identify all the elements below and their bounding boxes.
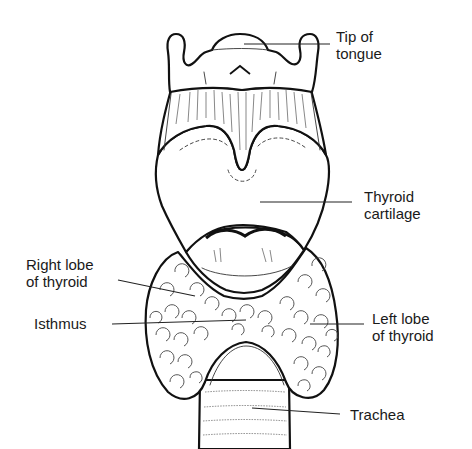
label-line: Thyroid	[364, 188, 421, 205]
thyroid-diagram: Tip of tongue Thyroid cartilage Right lo…	[0, 0, 472, 449]
label-line: Right lobe	[26, 256, 94, 273]
label-line: tongue	[336, 45, 382, 62]
label-left-lobe: Left lobe of thyroid	[372, 310, 434, 344]
label-line: cartilage	[364, 205, 421, 222]
anatomy-illustration	[0, 0, 472, 449]
label-line: of thyroid	[372, 327, 434, 344]
label-line: Trachea	[350, 406, 404, 423]
label-thyroid-cartilage: Thyroid cartilage	[364, 188, 421, 222]
label-line: Left lobe	[372, 310, 434, 327]
trachea-shape	[199, 380, 290, 449]
label-tip-of-tongue: Tip of tongue	[336, 28, 382, 62]
hyoid-bone-shape	[167, 34, 318, 92]
label-isthmus: Isthmus	[34, 315, 87, 332]
label-trachea: Trachea	[350, 406, 404, 423]
label-right-lobe: Right lobe of thyroid	[26, 256, 94, 290]
label-line: Isthmus	[34, 315, 87, 332]
label-line: Tip of	[336, 28, 382, 45]
label-line: of thyroid	[26, 273, 94, 290]
